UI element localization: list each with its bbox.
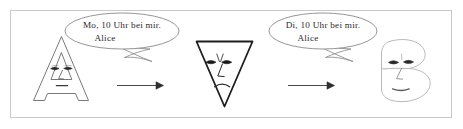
arrow-right-head [327, 82, 335, 89]
sender-nose [59, 70, 64, 79]
receiver-left-eye [388, 61, 398, 64]
figure-canvas: Mo, 10 Uhr bei mir. Alice Di, 10 Uhr bei… [0, 0, 463, 129]
arrow-left [117, 82, 164, 89]
letter-b-outline [382, 40, 431, 102]
bubble-left-balloon [65, 13, 179, 49]
bubble-right-signature: Alice [297, 33, 318, 43]
bubble-left-line1: Mo, 10 Uhr bei mir. [83, 20, 161, 30]
triangle-down-outline [197, 42, 253, 107]
bubble-left-signature: Alice [94, 33, 115, 43]
bubble-right-line1: Di, 10 Uhr bei mir. [286, 20, 361, 30]
receiver-nose [397, 68, 403, 79]
arrow-right [288, 82, 335, 89]
bubble-right: Di, 10 Uhr bei mir. Alice [269, 13, 377, 62]
receiver-face [388, 54, 413, 91]
receiver-mouth [393, 89, 410, 91]
illustration-svg: Mo, 10 Uhr bei mir. Alice Di, 10 Uhr bei… [0, 0, 463, 129]
bubble-right-balloon [269, 13, 377, 49]
actor-receiver [382, 40, 431, 102]
letter-b-waist [382, 68, 409, 69]
arrow-left-head [156, 82, 164, 89]
actor-sender [34, 37, 89, 101]
letter-a-outline [34, 37, 89, 101]
bubble-left: Mo, 10 Uhr bei mir. Alice [65, 13, 179, 62]
actor-attacker [197, 42, 253, 107]
receiver-right-eye [403, 60, 413, 63]
